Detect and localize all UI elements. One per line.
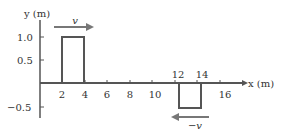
x-tick-label: 12 (172, 69, 185, 80)
velocity-label: −v (188, 120, 202, 131)
x-tick-label: 16 (219, 89, 232, 100)
x-tick-label: 2 (59, 89, 65, 100)
negative-pulse (179, 83, 201, 108)
y-tick-label: −0.5 (7, 102, 31, 113)
positive-pulse (62, 37, 84, 83)
y-tick-label: 1.0 (17, 32, 33, 43)
x-tick-label: 4 (82, 89, 88, 100)
y-tick-label: 0.5 (17, 55, 33, 66)
velocity-label: v (72, 15, 78, 26)
x-tick-label: 6 (104, 89, 110, 100)
y-axis-label: y (m) (23, 8, 50, 19)
x-axis-label: x (m) (248, 78, 274, 89)
pulse-diagram: y (m) 1.0 0.5 −0.5 x (m) 2 4 6 8 10 16 1… (0, 0, 282, 136)
x-tick-label: 8 (127, 89, 133, 100)
x-tick-label: 10 (149, 89, 162, 100)
x-tick-label: 14 (196, 69, 209, 80)
